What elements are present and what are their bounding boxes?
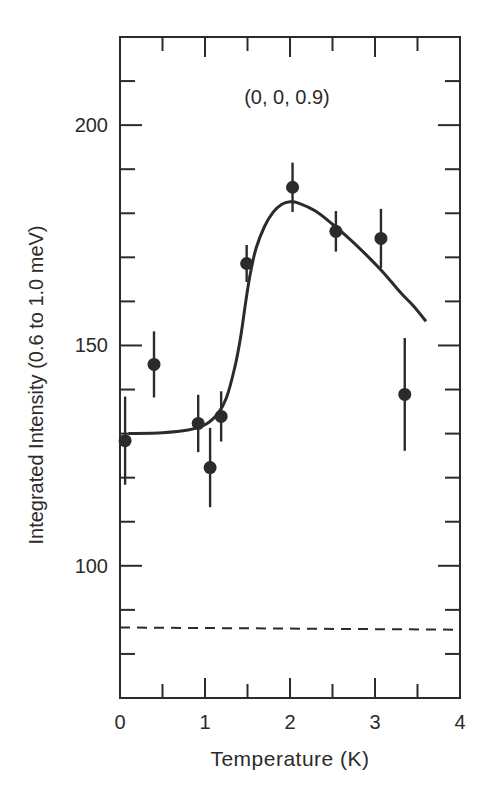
- data-point: [204, 428, 217, 507]
- plot-frame: [120, 37, 460, 698]
- data-marker: [148, 358, 161, 371]
- data-point: [329, 211, 342, 252]
- data-point: [374, 209, 387, 268]
- data-marker: [398, 388, 411, 401]
- y-axis-title: Integrated Intensity (0.6 to 1.0 meV): [25, 225, 47, 544]
- y-tick-label: 200: [75, 114, 108, 136]
- y-tick-label: 150: [75, 334, 108, 356]
- data-marker: [215, 410, 228, 423]
- chart: 01234100150200Temperature (K)Integrated …: [0, 0, 491, 803]
- data-marker: [329, 225, 342, 238]
- data-points: [119, 163, 412, 508]
- dashed-baseline: [120, 627, 460, 629]
- y-tick-label: 100: [75, 555, 108, 577]
- x-tick-label: 1: [199, 711, 210, 733]
- data-point: [398, 338, 411, 451]
- axis-labels: 01234100150200Temperature (K)Integrated …: [25, 114, 466, 770]
- x-tick-label: 0: [114, 711, 125, 733]
- data-point: [148, 331, 161, 397]
- x-tick-label: 2: [284, 711, 295, 733]
- plot-border: [120, 37, 460, 698]
- axis-ticks: [120, 37, 460, 698]
- data-marker: [240, 257, 253, 270]
- x-tick-label: 3: [369, 711, 380, 733]
- background-dashed-line: [120, 627, 460, 629]
- reflection-annotation: (0, 0, 0.9): [244, 86, 330, 108]
- data-marker: [374, 232, 387, 245]
- x-tick-label: 4: [454, 711, 465, 733]
- data-marker: [119, 434, 132, 447]
- x-axis-title: Temperature (K): [210, 747, 369, 770]
- data-marker: [192, 417, 205, 430]
- data-marker: [286, 181, 299, 194]
- data-point: [192, 395, 205, 452]
- data-point: [286, 163, 299, 212]
- data-marker: [204, 461, 217, 474]
